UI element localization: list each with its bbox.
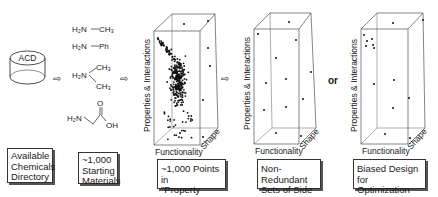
svg-text:H₂N: H₂N <box>72 71 87 80</box>
structure-dimethylamine: H₂N CH₃ CH₃ <box>72 63 111 91</box>
svg-text:CH₃: CH₃ <box>99 25 114 34</box>
caption-available-chemicals: Available Chemicals Directory <box>7 148 53 183</box>
cylinder-label: ACD <box>19 53 37 63</box>
biased-design-cube <box>361 13 425 144</box>
caption-biased-design: Biased Design for Optimization <box>353 159 426 189</box>
structure-aniline: H₂N Ph <box>72 42 109 51</box>
arrow-icon: ⇨ <box>120 73 128 84</box>
diagram-canvas: ACD ⇨ ⇨ ⇨ or H₂N CH₃ H₂N Ph H₂N CH₃ CH₃ … <box>0 0 438 197</box>
y-axis-label: Properties & Interactions <box>242 37 252 130</box>
svg-text:CH₃: CH₃ <box>96 82 111 91</box>
x-axis-label: Functionality <box>155 147 203 157</box>
structure-glycine: H₂N O OH <box>67 99 118 130</box>
x-axis-label: Functionality <box>362 146 410 156</box>
z-axis-label: Shape <box>405 126 429 151</box>
z-axis-label: Shape <box>198 126 222 151</box>
non-redundant-cube <box>254 13 316 144</box>
svg-text:O: O <box>97 99 103 108</box>
y-axis-label: Properties & Interactions <box>349 39 359 132</box>
caption-non-redundant: Non-Redundant Sets of Side chains <box>257 159 321 189</box>
scatter-points-dense <box>157 20 211 140</box>
svg-text:Ph: Ph <box>99 42 109 51</box>
structure-methylamine: H₂N CH₃ <box>72 25 114 34</box>
svg-text:OH: OH <box>106 121 118 130</box>
caption-starting-materials: ~1,000 Starting Materials <box>78 152 118 184</box>
scatter-points-biased <box>363 19 424 139</box>
svg-text:H₂N: H₂N <box>72 25 87 34</box>
svg-text:H₂N: H₂N <box>67 114 82 123</box>
z-axis-label: Shape <box>297 126 321 151</box>
caption-property-space: ~1,000 Points in "Property Space" <box>157 159 226 189</box>
arrow-icon: ⇨ <box>221 73 229 84</box>
or-label: or <box>328 75 338 86</box>
x-axis-label: Functionality <box>255 146 303 156</box>
svg-text:CH₃: CH₃ <box>96 63 111 72</box>
svg-text:H₂N: H₂N <box>72 42 87 51</box>
y-axis-label: Properties & Interactions <box>142 39 152 132</box>
scatter-points-sparse <box>257 21 312 137</box>
arrow-icon: ⇨ <box>53 73 61 84</box>
